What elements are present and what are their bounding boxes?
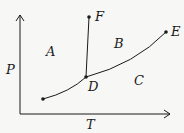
sublimation-curve xyxy=(43,77,86,99)
fusion-line xyxy=(86,17,89,77)
phase-boundaries xyxy=(43,17,166,99)
region-a-label: A xyxy=(45,44,55,59)
phase-diagram: P T A B C D F E xyxy=(0,0,184,133)
points xyxy=(41,15,168,101)
point-d-label: D xyxy=(87,79,99,94)
y-axis-label: P xyxy=(5,62,15,77)
region-c-label: C xyxy=(134,73,144,88)
region-b-label: B xyxy=(113,36,124,51)
point-f xyxy=(87,15,91,19)
point-e-label: E xyxy=(170,24,181,39)
vaporization-curve xyxy=(86,32,166,77)
critical-point-e xyxy=(164,30,168,34)
axes xyxy=(16,15,170,118)
x-axis-label: T xyxy=(86,117,96,132)
start-point xyxy=(41,97,45,101)
point-f-label: F xyxy=(94,9,105,24)
